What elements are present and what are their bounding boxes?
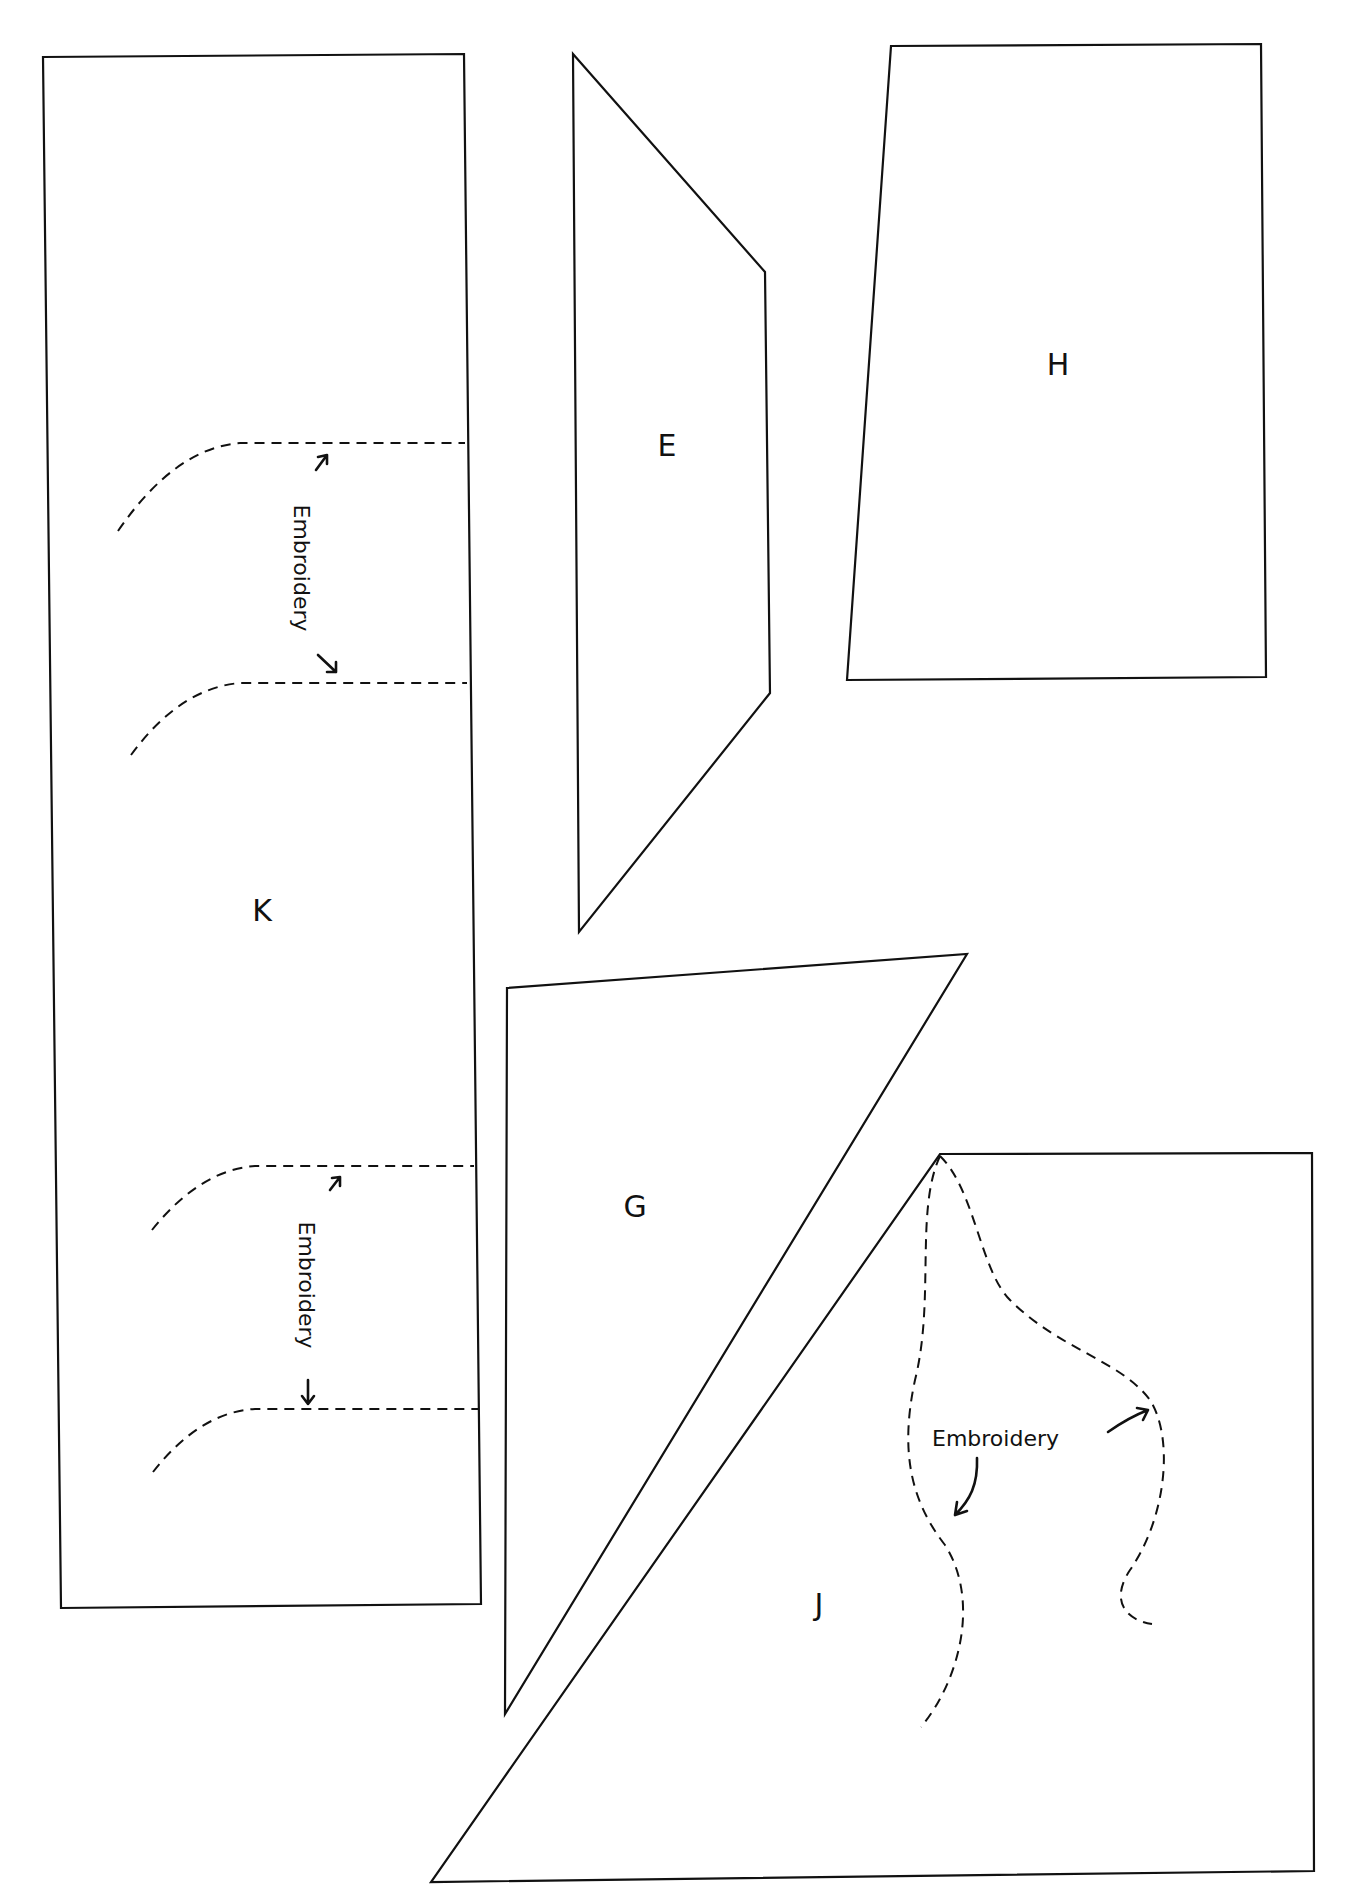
pattern-diagram: K Embroidery Embroidery E H G J Embroide bbox=[0, 0, 1355, 1894]
piece-j-label: J bbox=[813, 1587, 824, 1622]
piece-e: E bbox=[573, 54, 770, 932]
piece-e-label: E bbox=[658, 428, 677, 463]
piece-g-label: G bbox=[623, 1189, 646, 1224]
piece-h: H bbox=[847, 44, 1266, 680]
embroidery-label: Embroidery bbox=[289, 505, 314, 632]
piece-k: K Embroidery Embroidery bbox=[43, 54, 481, 1608]
piece-k-label: K bbox=[252, 893, 273, 928]
piece-h-label: H bbox=[1047, 347, 1070, 382]
embroidery-label: Embroidery bbox=[932, 1426, 1059, 1451]
embroidery-label: Embroidery bbox=[294, 1222, 319, 1349]
